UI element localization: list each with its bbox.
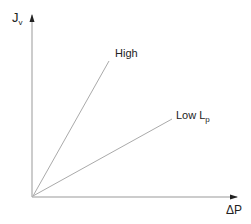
high-line (33, 61, 109, 196)
plot-area (0, 0, 251, 224)
y-axis-label: Jv (12, 10, 23, 27)
low-lp-label: Low Lp (176, 109, 210, 124)
low-label-sub: p (205, 115, 209, 124)
low-label-text: Low L (176, 109, 205, 121)
high-label-text: High (115, 47, 138, 59)
low-lp-line (33, 119, 172, 196)
high-label: High (115, 47, 138, 59)
y-axis-label-sub: v (19, 18, 23, 27)
x-axis-label: ΔP (226, 203, 242, 217)
x-axis-label-text: ΔP (226, 203, 242, 217)
